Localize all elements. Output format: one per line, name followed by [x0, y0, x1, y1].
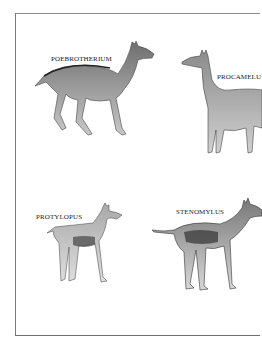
- frame-top-rule: [15, 13, 260, 14]
- frame-bottom-rule: [15, 335, 260, 336]
- frame-left-rule: [15, 13, 16, 336]
- specimen-label: STENOMYLUS: [176, 208, 224, 216]
- specimen-label: POEBROTHERIUM: [51, 55, 112, 63]
- specimen-label: PROTYLOPUS: [36, 213, 82, 221]
- poebrotherium-illustration: [30, 38, 160, 143]
- procamelus-illustration: [180, 48, 262, 158]
- specimen-label: PROCAMELU: [217, 73, 261, 81]
